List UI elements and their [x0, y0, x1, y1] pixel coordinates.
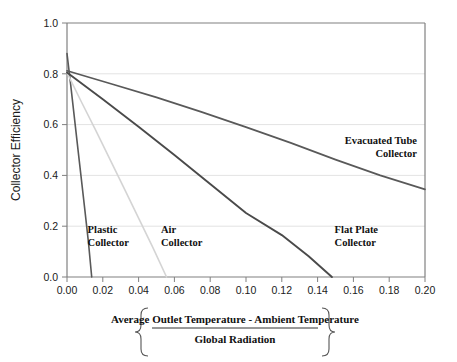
- x-tick-label: 0.02: [93, 284, 114, 296]
- y-tick-label: 0.8: [43, 68, 58, 80]
- y-tick-label: 0.2: [43, 220, 58, 232]
- x-tick-label: 0.08: [200, 284, 221, 296]
- series-label-1-line1: Air: [161, 224, 177, 235]
- y-tick-label: 1.0: [43, 17, 58, 29]
- series-label-0-line1: Plastic: [88, 224, 118, 235]
- collector-efficiency-chart: 0.000.020.040.060.080.100.120.140.160.18…: [0, 0, 457, 362]
- y-tick-label: 0.4: [43, 169, 58, 181]
- x-tick-label: 0.00: [57, 284, 78, 296]
- series-label-2-line2: Collector: [335, 237, 377, 248]
- y-tick-label: 0.0: [43, 271, 58, 283]
- x-tick-label: 0.10: [236, 284, 257, 296]
- x-tick-label: 0.20: [415, 284, 436, 296]
- x-tick-label: 0.06: [164, 284, 185, 296]
- x-axis-denominator-text: Global Radiation: [195, 333, 276, 345]
- y-tick-label: 0.6: [43, 118, 58, 130]
- x-axis-numerator-text: Average Outlet Temperature - Ambient Tem…: [111, 313, 359, 325]
- series-label-2-line1: Flat Plate: [335, 224, 379, 235]
- y-axis-title-text: Collector Efficiency: [9, 99, 23, 201]
- x-tick-label: 0.14: [307, 284, 328, 296]
- series-label-1-line2: Collector: [161, 237, 203, 248]
- y-axis-title: Collector Efficiency: [9, 99, 23, 201]
- x-tick-label: 0.04: [128, 284, 149, 296]
- series-label-3-line1: Evacuated Tube: [345, 135, 417, 146]
- chart-canvas: 0.000.020.040.060.080.100.120.140.160.18…: [0, 0, 457, 362]
- series-label-0-line2: Collector: [88, 237, 130, 248]
- chart-background: [0, 0, 457, 362]
- x-tick-label: 0.12: [272, 284, 293, 296]
- x-tick-label: 0.18: [379, 284, 400, 296]
- x-tick-label: 0.16: [343, 284, 364, 296]
- series-label-3-line2: Collector: [376, 148, 418, 159]
